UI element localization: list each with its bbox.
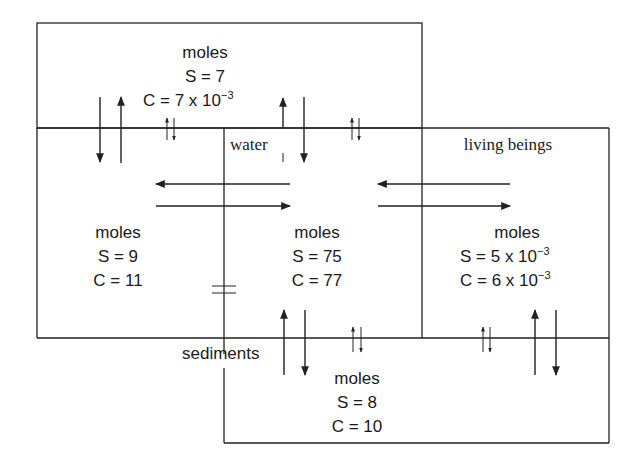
- atmosphere-values: moles S = 7 C = 7 x 10−3: [143, 43, 234, 110]
- atmosphere-s: S = 7: [185, 67, 225, 86]
- soil-c: C = 11: [93, 271, 142, 290]
- atmosphere-c: C = 7 x 10−3: [143, 89, 234, 110]
- compartment-diagram: moles S = 7 C = 7 x 10−3 moles S = 9 C =…: [0, 0, 639, 464]
- water-unit: moles: [294, 223, 339, 242]
- atmosphere-box: [37, 23, 422, 128]
- soil-s: S = 9: [98, 247, 138, 266]
- sediments-unit: moles: [334, 369, 379, 388]
- living-beings-s: S = 5 x 10−3: [460, 245, 550, 266]
- water-c: C = 77: [292, 271, 343, 290]
- atmosphere-unit: moles: [182, 43, 227, 62]
- water-values: moles S = 75 C = 77: [292, 223, 343, 290]
- sediments-values: moles S = 8 C = 10: [332, 369, 383, 436]
- living-beings-unit: moles: [494, 223, 539, 242]
- water-s: S = 75: [292, 247, 342, 266]
- living-beings-c: C = 6 x 10−3: [460, 269, 551, 290]
- soil-values: moles S = 9 C = 11: [93, 223, 142, 290]
- sediments-s: S = 8: [337, 393, 377, 412]
- soil-unit: moles: [95, 223, 140, 242]
- living-beings-values: moles S = 5 x 10−3 C = 6 x 10−3: [460, 223, 551, 290]
- water-label: water: [230, 135, 268, 154]
- living-beings-label: living beings: [464, 135, 552, 154]
- sediments-label: sediments: [182, 344, 259, 363]
- sediments-c: C = 10: [332, 417, 383, 436]
